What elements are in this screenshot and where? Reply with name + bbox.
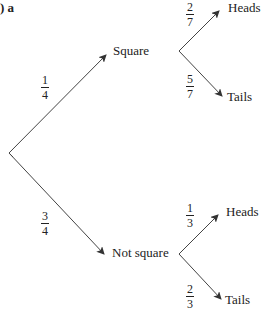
branch-square [9,55,106,153]
prob-square-heads: 2 7 [186,1,194,28]
node-notsquare-heads: Heads [226,204,259,220]
node-square-tails: Tails [227,89,252,105]
branch-not-square [9,153,104,254]
node-notsquare-tails: Tails [225,292,250,308]
branch-notsquare-heads [179,215,218,254]
prob-notsquare-heads: 1 3 [186,202,194,229]
branch-square-heads [179,11,219,51]
node-square-heads: Heads [228,0,261,16]
prob-square: 1 4 [41,74,49,101]
node-square: Square [113,43,149,59]
prob-not-square: 3 4 [41,210,49,237]
prob-square-tails: 5 7 [186,73,194,100]
prob-notsquare-tails: 2 3 [186,283,194,310]
node-not-square: Not square [112,245,169,261]
